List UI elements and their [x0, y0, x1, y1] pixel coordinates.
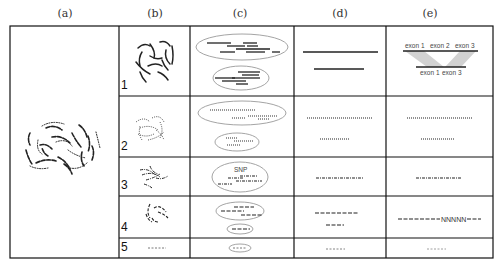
splicing-diagram-e1: exon 1 exon 2 exon 3 exon 1 exon 3: [403, 42, 478, 76]
reads-cluster-a: [26, 122, 100, 174]
exon-top-2: exon 2: [430, 42, 450, 49]
exon-top-1: exon 1: [405, 42, 425, 49]
assembly-diagram: SNP exon 1 exon 2 exon: [0, 0, 501, 270]
exon-top-3: exon 3: [455, 42, 475, 49]
scaffolds-e: [398, 118, 481, 249]
snp-label: SNP: [234, 166, 247, 173]
contig-cluster-c5: [229, 244, 251, 252]
contig-cluster-c1: [196, 34, 288, 90]
contigs-d: [303, 52, 378, 249]
reads-dashed-b4: [146, 204, 168, 222]
contig-cluster-c3: SNP: [212, 162, 268, 192]
contig-cluster-c2: [198, 101, 286, 151]
reads-long-b1: [136, 42, 173, 83]
exon-bottom-3: exon 3: [442, 69, 462, 76]
contig-cluster-c4: [216, 202, 264, 234]
reads-dotted-b2: [136, 117, 164, 140]
exon-bottom-1: exon 1: [420, 69, 440, 76]
reads-mixed-b3: [140, 166, 168, 188]
gap-label: NNNNN: [441, 216, 466, 223]
